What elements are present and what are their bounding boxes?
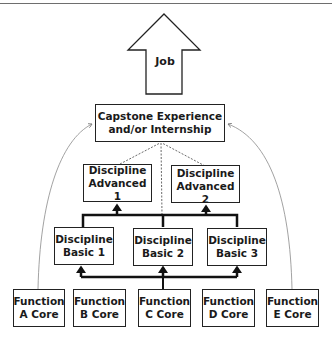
capstone-box: Capstone Experience and/or Internship [95,104,225,142]
function-a-label: Function A Core [13,295,64,321]
advanced-1-box: Discipline Advanced 1 [83,164,152,202]
bus-basic-to-advanced [83,215,237,227]
basic-1-label: Discipline Basic 1 [55,233,113,259]
job-arrow-shape [128,14,200,94]
advanced-2-box: Discipline Advanced 2 [171,165,240,203]
basic-3-label: Discipline Basic 3 [208,234,266,260]
connector-layer [0,0,332,338]
function-c-label: Function C Core [139,295,190,321]
function-b-label: Function B Core [74,295,125,321]
function-a-box: Function A Core [13,289,65,327]
basic-2-label: Discipline Basic 2 [134,234,192,260]
function-c-box: Function C Core [138,289,191,327]
function-b-box: Function B Core [73,289,126,327]
dashed-link-advanced2-capstone [162,143,205,166]
basic-3-box: Discipline Basic 3 [207,228,267,266]
basic-1-box: Discipline Basic 1 [54,227,114,265]
function-e-label: Function E Core [267,295,318,321]
function-d-label: Function D Core [203,295,254,321]
dashed-link-advanced1-capstone [120,143,160,164]
dashed-link-basic2-capstone [161,143,162,215]
advanced-1-label: Discipline Advanced 1 [84,164,151,203]
function-d-box: Function D Core [202,289,255,327]
function-e-box: Function E Core [266,289,319,327]
basic-2-box: Discipline Basic 2 [133,228,193,266]
advanced-2-label: Discipline Advanced 2 [177,167,235,206]
job-label: Job [150,55,180,68]
capstone-label: Capstone Experience and/or Internship [98,110,222,136]
